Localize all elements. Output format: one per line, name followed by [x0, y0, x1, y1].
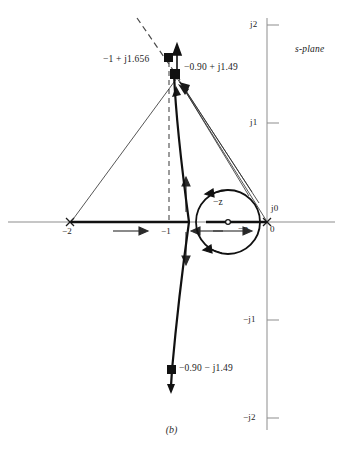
breakpoint-lower-label: −0.90 − j1.49	[179, 363, 233, 373]
vector-from-pole-minus2	[71, 78, 177, 222]
tick-label-neg-j1: −j1	[243, 314, 256, 324]
vector-arrowhead-3	[172, 86, 181, 97]
tick-label-minus-2: −2	[62, 226, 72, 236]
asymptote-point-label: −1 + j1.656	[103, 54, 149, 64]
root-locus-figure: s-plane −1 + j1.656 −0.90 + j1.49 −0.90 …	[0, 0, 343, 462]
locus-curve-upper	[174, 74, 189, 222]
zero-center-marker	[226, 220, 231, 225]
breakpoint-upper-label: −0.90 + j1.49	[184, 62, 238, 72]
tick-label-j0: j0	[271, 203, 278, 213]
locus-curve-lower	[172, 222, 189, 370]
arrow-head-right-1	[139, 227, 148, 235]
zero-label: −z	[213, 197, 223, 207]
figure-caption: (b)	[0, 424, 343, 435]
pole-label: −p	[238, 224, 249, 234]
tick-label-j1: j1	[250, 117, 257, 127]
tick-label-neg-j2: −j2	[243, 412, 256, 422]
real-axis-direction-arrows	[113, 227, 252, 235]
marker-breakpoint-lower	[167, 365, 176, 374]
locus-upper-arrow	[173, 44, 181, 72]
tick-label-zero: 0	[270, 224, 275, 234]
circle-arrow-head-top	[205, 189, 214, 197]
locus-upper-arrow-head	[173, 44, 181, 55]
tick-label-j2: j2	[250, 19, 257, 29]
vector-to-zero	[181, 84, 249, 196]
marker-asymptote-point	[164, 53, 173, 62]
s-plane-label: s-plane	[295, 44, 324, 54]
locus-lower-arrowhead	[167, 384, 175, 394]
plot-canvas	[0, 0, 343, 462]
vector-to-circle-top	[180, 82, 252, 192]
tick-label-minus-1: −1	[161, 226, 171, 236]
marker-breakpoint-upper	[170, 69, 180, 79]
